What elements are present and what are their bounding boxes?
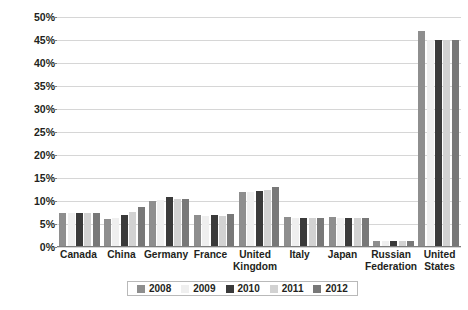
bar — [272, 187, 279, 247]
y-axis-tick-label: 5% — [9, 218, 55, 230]
bar — [256, 191, 263, 247]
y-axis-tick-label: 50% — [9, 11, 55, 23]
gridline — [57, 247, 461, 248]
bar — [362, 218, 369, 247]
bar — [435, 40, 442, 247]
bar — [59, 213, 66, 248]
bar — [337, 218, 344, 247]
y-axis-tick-label: 20% — [9, 149, 55, 161]
bar — [247, 192, 254, 247]
bar — [93, 213, 100, 248]
bar — [354, 218, 361, 247]
bar-group — [57, 17, 102, 247]
bar — [292, 218, 299, 247]
bar — [182, 199, 189, 247]
x-axis-category-label: Canada — [57, 249, 100, 281]
x-axis-category-labels: CanadaChinaGermanyFranceUnited KingdomIt… — [57, 249, 461, 281]
bar — [104, 219, 111, 247]
x-axis-category-label: China — [100, 249, 143, 281]
bar-group — [102, 17, 147, 247]
legend-swatch-icon — [137, 285, 145, 293]
bar-group — [192, 17, 237, 247]
bar-chart: Share of citations 0%5%10%15%20%25%30%35… — [0, 0, 468, 310]
bar — [112, 218, 119, 247]
bar — [329, 217, 336, 247]
bar — [300, 218, 307, 247]
legend-swatch-icon — [313, 285, 321, 293]
bar — [309, 218, 316, 247]
bar — [227, 214, 234, 247]
y-axis-tick-label: 25% — [9, 126, 55, 138]
plot-area — [57, 17, 461, 247]
legend-item[interactable]: 2012 — [313, 283, 347, 294]
legend-item[interactable]: 2008 — [137, 283, 171, 294]
bar-group — [281, 17, 326, 247]
bar — [76, 213, 83, 248]
bar — [211, 215, 218, 247]
bar — [174, 199, 181, 247]
legend-label: 2009 — [193, 283, 215, 294]
bar — [219, 216, 226, 247]
y-axis-tick-label: 30% — [9, 103, 55, 115]
bar-group — [371, 17, 416, 247]
bar — [68, 213, 75, 248]
x-axis-category-label: United Kingdom — [232, 249, 278, 281]
bar — [121, 215, 128, 247]
bar — [239, 192, 246, 247]
y-axis-tick-label: 35% — [9, 80, 55, 92]
y-axis-tick-label: 10% — [9, 195, 55, 207]
bar — [452, 40, 459, 247]
bar-groups — [57, 17, 461, 247]
bar — [84, 213, 91, 248]
bar — [194, 215, 201, 247]
y-axis-tick-label: 15% — [9, 172, 55, 184]
x-axis-category-label: France — [189, 249, 232, 281]
x-axis-category-label: Germany — [143, 249, 189, 281]
bar — [157, 200, 164, 247]
bar — [149, 201, 156, 247]
bar — [264, 190, 271, 247]
bar — [345, 218, 352, 247]
legend-item[interactable]: 2010 — [226, 283, 260, 294]
x-axis-category-label: United States — [418, 249, 461, 281]
bar-group — [416, 17, 461, 247]
legend-item[interactable]: 2009 — [181, 283, 215, 294]
bar — [418, 31, 425, 247]
bar — [317, 218, 324, 247]
legend-label: 2008 — [149, 283, 171, 294]
bar — [129, 212, 136, 247]
bar-group — [237, 17, 282, 247]
x-axis-category-label: Russian Federation — [364, 249, 418, 281]
legend-label: 2010 — [238, 283, 260, 294]
bar — [202, 216, 209, 247]
bar — [138, 207, 145, 247]
bar-group — [147, 17, 192, 247]
x-axis-category-label: Italy — [278, 249, 321, 281]
bar-group — [326, 17, 371, 247]
y-axis-tick-label: 0% — [9, 241, 55, 253]
legend-label: 2012 — [325, 283, 347, 294]
y-axis-tick-label: 45% — [9, 34, 55, 46]
legend-item[interactable]: 2011 — [270, 283, 304, 294]
legend-swatch-icon — [226, 285, 234, 293]
x-axis-line — [57, 246, 461, 247]
legend-swatch-icon — [270, 285, 278, 293]
y-axis-tick-label: 40% — [9, 57, 55, 69]
legend-swatch-icon — [181, 285, 189, 293]
bar — [166, 197, 173, 247]
x-axis-category-label: Japan — [321, 249, 364, 281]
bar — [427, 40, 434, 247]
legend-label: 2011 — [282, 283, 304, 294]
chart-legend: 20082009201020112012 — [127, 281, 358, 296]
bar — [284, 217, 291, 247]
bar — [443, 40, 450, 247]
